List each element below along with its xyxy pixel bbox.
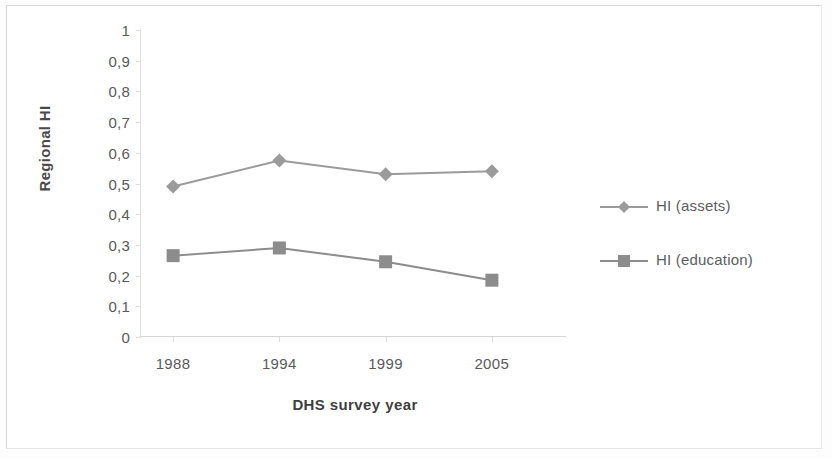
y-tick-mark: [136, 122, 141, 123]
chart-figure: Regional HI 00,10,20,30,40,50,60,70,80,9…: [0, 0, 832, 459]
x-tick-label: 1999: [341, 355, 431, 372]
legend-label-assets: HI (assets): [656, 197, 731, 214]
x-tick-mark: [386, 337, 387, 342]
legend-marker-diamond-icon: [600, 200, 648, 214]
y-tick-mark: [136, 91, 141, 92]
legend-label-education: HI (education): [656, 251, 753, 268]
y-tick-mark: [136, 30, 141, 31]
y-tick-label: 0,6: [70, 144, 130, 161]
y-tick-label: 0: [70, 329, 130, 346]
y-tick-label: 0,4: [70, 206, 130, 223]
x-tick-label: 1988: [128, 355, 218, 372]
y-tick-mark: [136, 184, 141, 185]
legend-marker-square-icon: [600, 254, 648, 268]
legend-item-assets[interactable]: HI (assets): [600, 192, 815, 246]
x-tick-mark: [173, 337, 174, 342]
y-tick-mark: [136, 306, 141, 307]
y-tick-mark: [136, 61, 141, 62]
x-tick-label: 2005: [447, 355, 537, 372]
x-tick-mark: [279, 337, 280, 342]
y-tick-mark: [136, 276, 141, 277]
legend-item-education[interactable]: HI (education): [600, 246, 815, 300]
y-tick-label: 1: [70, 22, 130, 39]
y-axis-title: Regional HI: [36, 69, 53, 229]
x-axis-title: DHS survey year: [140, 396, 570, 413]
y-tick-label: 0,7: [70, 114, 130, 131]
y-tick-mark: [136, 245, 141, 246]
x-tick-label: 1994: [234, 355, 324, 372]
y-tick-label: 0,1: [70, 298, 130, 315]
y-tick-mark: [136, 214, 141, 215]
y-tick-mark: [136, 153, 141, 154]
y-tick-label: 0,2: [70, 267, 130, 284]
y-tick-mark: [136, 337, 141, 338]
y-tick-label: 0,8: [70, 83, 130, 100]
x-tick-mark: [492, 337, 493, 342]
y-tick-label: 0,9: [70, 52, 130, 69]
y-tick-label: 0,3: [70, 236, 130, 253]
chart-legend: HI (assets) HI (education): [600, 192, 815, 300]
x-axis-line: [140, 336, 566, 337]
y-tick-label: 0,5: [70, 175, 130, 192]
